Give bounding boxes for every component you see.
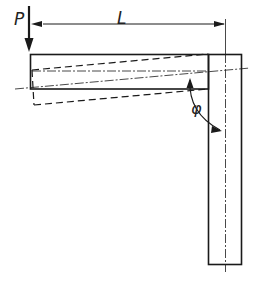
length-label: L	[117, 8, 126, 28]
angle-label: φ	[191, 99, 202, 118]
centerlines	[15, 54, 250, 272]
horizontal-beam	[31, 55, 209, 90]
vertical-post	[209, 55, 242, 265]
arrow-down-icon	[25, 38, 34, 52]
arrow-left-icon	[31, 21, 42, 27]
arrow-right-icon	[214, 21, 225, 27]
frame-diagram: P L φ	[0, 0, 258, 284]
load-arrow	[25, 6, 34, 52]
arrow-right-icon	[211, 126, 222, 133]
arrow-up-icon	[187, 78, 194, 88]
load-label: P	[14, 9, 25, 29]
length-dimension	[31, 19, 226, 54]
